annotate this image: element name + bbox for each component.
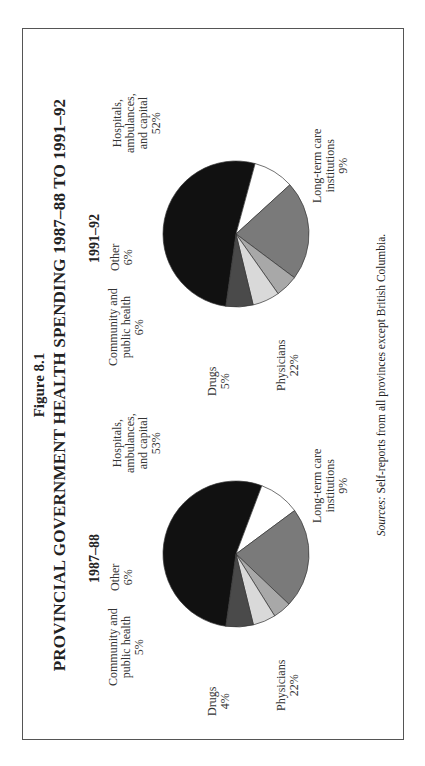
label-drugs-1991: Drugs5% (206, 367, 232, 396)
figure-rotated-content: Figure 8.1 PROVINCIAL GOVERNMENT HEALTH … (23, 29, 405, 741)
figure-title: PROVINCIAL GOVERNMENT HEALTH SPENDING 19… (50, 29, 70, 741)
pie-chart-1991 (161, 159, 311, 309)
sources-text: Self-reports from all provinces except B… (375, 234, 387, 497)
figure-number: Figure 8.1 (31, 29, 48, 741)
pie-title-1991: 1991–92 (87, 214, 103, 263)
pie-title-1987: 1987–88 (87, 534, 103, 583)
label-physicians-1991: Physicians22% (275, 340, 301, 391)
sources-note: Sources: Self-reports from all provinces… (375, 29, 387, 741)
label-community-1991: Community andpublic health6% (107, 288, 146, 366)
sources-prefix: Sources: (375, 496, 387, 536)
figure-frame: Figure 8.1 PROVINCIAL GOVERNMENT HEALTH … (22, 28, 404, 740)
label-drugs-1987: Drugs4% (206, 687, 232, 716)
label-ltc-1991: Long-term careinstitutions9% (311, 129, 350, 203)
label-hospitals-1991: Hospitals,ambulances,and capital52% (111, 93, 163, 153)
label-physicians-1987: Physicians22% (275, 660, 301, 711)
label-community-1987: Community andpublic health5% (107, 608, 146, 686)
label-hospitals-1987: Hospitals,ambulances,and capital53% (111, 413, 163, 473)
label-other-1991: Other6% (109, 244, 135, 271)
label-other-1987: Other6% (109, 564, 135, 591)
label-ltc-1987: Long-term careinstitutions9% (311, 449, 350, 523)
pie-chart-1987 (161, 479, 311, 629)
